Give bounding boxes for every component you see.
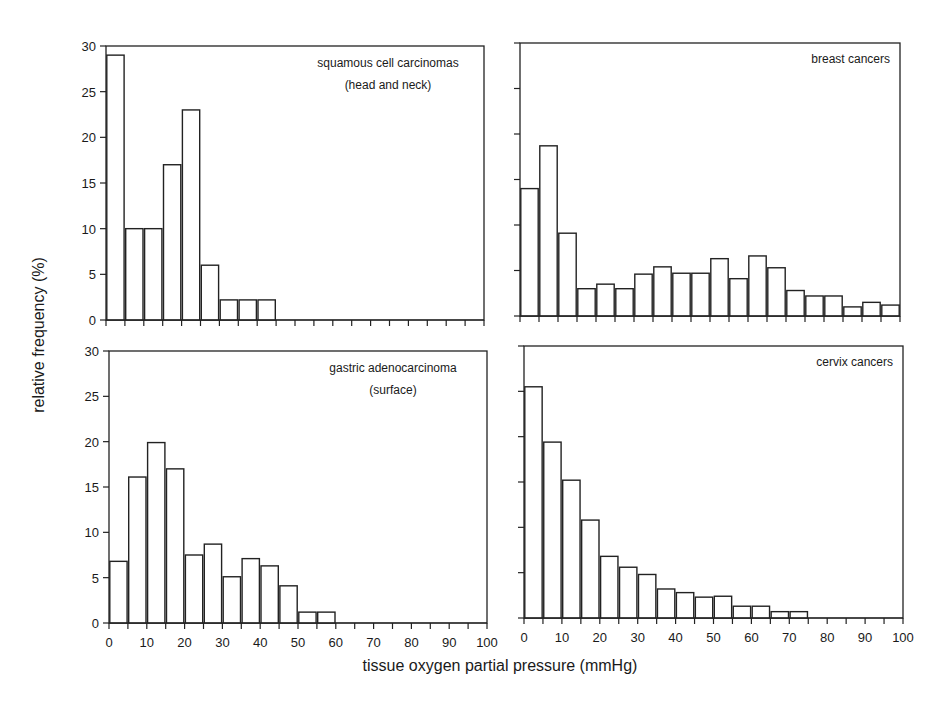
histogram-bar bbox=[525, 387, 542, 618]
y-tick-label: 20 bbox=[82, 130, 96, 145]
histogram-bar bbox=[768, 268, 785, 316]
histogram-bar bbox=[787, 291, 804, 316]
histogram-bar bbox=[182, 110, 199, 320]
y-tick-label: 30 bbox=[85, 344, 99, 359]
y-tick-label: 20 bbox=[85, 435, 99, 450]
panel-title: breast cancers bbox=[811, 52, 890, 66]
x-tick-label: 80 bbox=[404, 635, 418, 650]
histogram-bar bbox=[318, 612, 335, 623]
panel-title: squamous cell carcinomas(head and neck) bbox=[317, 56, 458, 92]
panel-title-line: (head and neck) bbox=[345, 78, 432, 92]
histogram-bar bbox=[863, 302, 880, 316]
histogram-bar bbox=[540, 146, 557, 316]
histogram-bar bbox=[806, 296, 823, 316]
panel-title-line: cervix cancers bbox=[816, 355, 893, 369]
chart-canvas: 051015202530squamous cell carcinomas(hea… bbox=[0, 0, 951, 720]
panel-cervix: 0102030405060708090100cervix cancers bbox=[518, 346, 914, 645]
histogram-bar bbox=[733, 606, 750, 618]
panel-title-line: squamous cell carcinomas bbox=[317, 56, 458, 70]
y-tick-label: 25 bbox=[82, 85, 96, 100]
histogram-bar bbox=[280, 586, 297, 623]
histogram-bar bbox=[299, 612, 316, 623]
panel-title: cervix cancers bbox=[816, 355, 893, 369]
x-tick-label: 90 bbox=[442, 635, 456, 650]
panel-title-line: gastric adenocarcinoma bbox=[329, 361, 457, 375]
histogram-bar bbox=[521, 189, 538, 316]
y-tick-label: 25 bbox=[85, 389, 99, 404]
histogram-bar bbox=[563, 480, 580, 618]
histogram-bar bbox=[597, 284, 614, 316]
histogram-bar bbox=[559, 233, 576, 316]
x-tick-label: 30 bbox=[630, 630, 644, 645]
histogram-bar bbox=[544, 442, 561, 618]
y-tick-label: 0 bbox=[89, 313, 96, 328]
x-tick-label: 0 bbox=[520, 630, 527, 645]
x-tick-label: 40 bbox=[253, 635, 267, 650]
histogram-bar bbox=[771, 612, 788, 618]
panel-squamous: 051015202530squamous cell carcinomas(hea… bbox=[82, 39, 484, 328]
y-tick-label: 5 bbox=[89, 267, 96, 282]
y-tick-label: 0 bbox=[92, 616, 99, 631]
histogram-bar bbox=[676, 593, 693, 618]
x-tick-label: 10 bbox=[140, 635, 154, 650]
histogram-bar bbox=[692, 273, 709, 316]
x-tick-label: 20 bbox=[177, 635, 191, 650]
y-tick-label: 10 bbox=[85, 525, 99, 540]
y-tick-label: 15 bbox=[82, 176, 96, 191]
x-tick-label: 90 bbox=[858, 630, 872, 645]
x-tick-label: 10 bbox=[555, 630, 569, 645]
histogram-bar bbox=[582, 520, 599, 618]
bars bbox=[521, 146, 899, 316]
histogram-bar bbox=[167, 469, 184, 623]
y-tick-label: 30 bbox=[82, 39, 96, 54]
histogram-bar bbox=[714, 596, 731, 618]
x-tick-label: 100 bbox=[476, 635, 498, 650]
panel-title-line: breast cancers bbox=[811, 52, 890, 66]
histogram-bar bbox=[825, 296, 842, 316]
histogram-bar bbox=[695, 597, 712, 618]
panel-breast: breast cancers bbox=[514, 43, 900, 322]
histogram-bar bbox=[620, 567, 637, 618]
x-tick-label: 30 bbox=[215, 635, 229, 650]
histogram-bar bbox=[220, 300, 237, 320]
histogram-bar bbox=[673, 273, 690, 316]
x-tick-label: 0 bbox=[105, 635, 112, 650]
x-tick-label: 50 bbox=[706, 630, 720, 645]
x-tick-label: 70 bbox=[366, 635, 380, 650]
bars bbox=[107, 55, 275, 320]
panel-title-line: (surface) bbox=[369, 383, 416, 397]
histogram-bar bbox=[223, 577, 240, 623]
y-axis-title: relative frequency (%) bbox=[30, 257, 47, 413]
histogram-bar bbox=[201, 265, 218, 320]
histogram-bar bbox=[654, 267, 671, 316]
histogram-bar bbox=[258, 300, 275, 320]
x-tick-label: 60 bbox=[329, 635, 343, 650]
x-tick-label: 60 bbox=[744, 630, 758, 645]
panels: 051015202530squamous cell carcinomas(hea… bbox=[82, 39, 914, 650]
y-tick-label: 5 bbox=[92, 571, 99, 586]
histogram-bar bbox=[635, 274, 652, 316]
histogram-bar bbox=[730, 279, 747, 316]
plot-frame bbox=[524, 346, 903, 618]
histogram-bar bbox=[752, 606, 769, 618]
histogram-bar bbox=[242, 559, 259, 623]
histogram-bar bbox=[657, 589, 674, 618]
histogram-bar bbox=[639, 574, 656, 618]
bars bbox=[525, 387, 808, 618]
histogram-bar bbox=[261, 566, 278, 623]
histogram-bar bbox=[110, 561, 127, 623]
bars bbox=[110, 443, 335, 623]
plot-frame bbox=[520, 43, 900, 316]
histogram-bar bbox=[616, 289, 633, 316]
histogram-bar bbox=[129, 477, 146, 623]
y-tick-label: 15 bbox=[85, 480, 99, 495]
histogram-bar bbox=[711, 259, 728, 316]
x-tick-label: 20 bbox=[593, 630, 607, 645]
histogram-bar bbox=[107, 55, 124, 320]
histogram-bar bbox=[749, 256, 766, 316]
histogram-bar bbox=[185, 555, 202, 623]
x-axis-title: tissue oxygen partial pressure (mmHg) bbox=[363, 657, 638, 674]
panel-gastric: 0102030405060708090100051015202530gastri… bbox=[85, 344, 498, 650]
plot-frame bbox=[109, 351, 487, 623]
histogram-bar bbox=[204, 544, 221, 623]
